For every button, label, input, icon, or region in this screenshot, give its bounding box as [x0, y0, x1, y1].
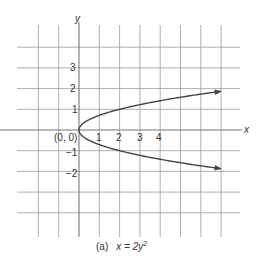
y-tick-label: 1: [72, 105, 78, 115]
y-tick-label: 3: [70, 63, 76, 73]
axes: [0, 22, 242, 237]
graph-canvas: [0, 0, 263, 263]
x-axis-label: x: [244, 125, 249, 135]
figure-caption: (a)x = 2y2: [96, 240, 147, 252]
x-tick-label: 2: [116, 133, 122, 143]
y-tick-label: −1: [66, 148, 77, 158]
caption-equation: x = 2y2: [116, 241, 147, 252]
grid-lines: [17, 25, 240, 237]
x-tick-label: 1: [96, 133, 102, 143]
y-tick-label: 2: [70, 84, 76, 94]
y-tick-label: −2: [66, 169, 77, 179]
origin-label: (0, 0): [54, 133, 77, 143]
x-tick-label: 3: [137, 133, 143, 143]
y-axis-label: y: [75, 14, 80, 24]
x-tick-label: 4: [156, 133, 162, 143]
caption-prefix: (a): [96, 241, 108, 252]
